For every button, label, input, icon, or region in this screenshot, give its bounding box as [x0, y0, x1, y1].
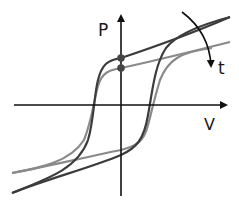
x-axis-label: V — [204, 117, 215, 133]
diagram-graphics — [0, 0, 239, 210]
time-arrow-label: t — [218, 60, 225, 77]
time-arrow-icon — [182, 12, 211, 66]
remanent-dot-upper — [117, 54, 125, 62]
remanent-dot-lower — [117, 64, 125, 72]
y-axis-label: P — [98, 22, 108, 39]
hysteresis-diagram: P t V — [0, 0, 239, 210]
